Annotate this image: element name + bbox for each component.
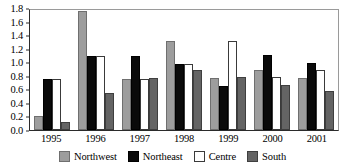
bar-1998-centre	[184, 64, 193, 130]
bar-2001-northeast	[307, 63, 316, 130]
bar-1996-south	[105, 93, 114, 130]
x-axis-tick-label-2001: 2001	[307, 133, 327, 147]
legend-item-south[interactable]: South	[247, 151, 286, 162]
bar-1995-centre	[52, 79, 61, 131]
y-axis-tick-label: 1.6	[10, 17, 23, 28]
bar-1998-south	[193, 70, 202, 130]
x-axis-tick-label-2000: 2000	[262, 133, 282, 147]
legend-item-centre[interactable]: Centre	[194, 151, 236, 162]
x-axis-tick-label-1996: 1996	[85, 133, 105, 147]
y-axis: 0.00.20.40.60.81.01.21.41.61.8	[0, 0, 26, 136]
bar-1995-northwest	[34, 116, 43, 130]
bar-2000-south	[281, 85, 290, 130]
bar-1996-northwest	[78, 11, 87, 130]
legend-swatch-icon	[247, 151, 258, 162]
bar-group-2001	[298, 10, 334, 130]
legend-item-northwest[interactable]: Northwest	[59, 151, 117, 162]
bar-2000-northeast	[263, 55, 272, 130]
legend-swatch-icon	[194, 151, 205, 162]
y-axis-tick-label: 0.4	[10, 99, 23, 110]
legend-item-northeast[interactable]: Northeast	[128, 151, 183, 162]
x-axis-tick-label-1995: 1995	[41, 133, 61, 147]
bar-1998-northeast	[175, 64, 184, 130]
x-axis-tick-label-1998: 1998	[174, 133, 194, 147]
bar-group-1999	[210, 10, 246, 130]
x-axis-tick-label-1997: 1997	[130, 133, 150, 147]
x-axis: 1995199619971998199920002001	[29, 133, 339, 147]
bar-2001-northwest	[298, 78, 307, 130]
y-axis-tick-label: 1.0	[10, 58, 23, 69]
bar-1995-northeast	[43, 79, 52, 131]
y-axis-tick-label: 1.2	[10, 44, 23, 55]
legend-item-label: Centre	[209, 151, 236, 162]
grouped-bar-chart: 0.00.20.40.60.81.01.21.41.61.8 199519961…	[0, 0, 345, 167]
bar-group-1997	[122, 10, 158, 130]
plot-area	[29, 9, 339, 131]
y-axis-tick-label: 1.8	[10, 4, 23, 15]
bar-1997-south	[149, 78, 158, 130]
legend-item-label: South	[262, 151, 286, 162]
bar-group-1998	[166, 10, 202, 130]
y-axis-tick-label: 1.4	[10, 31, 23, 42]
bar-2001-south	[325, 91, 334, 130]
y-axis-tick-label: 0.8	[10, 72, 23, 83]
chart-legend: NorthwestNortheastCentreSouth	[0, 148, 345, 164]
legend-swatch-icon	[59, 151, 70, 162]
legend-item-label: Northeast	[143, 151, 183, 162]
bar-1997-northeast	[131, 56, 140, 130]
bar-group-1995	[34, 10, 70, 130]
y-axis-tick-label: 0.6	[10, 85, 23, 96]
legend-item-label: Northwest	[74, 151, 117, 162]
bar-1998-northwest	[166, 41, 175, 130]
x-axis-tick-label-1999: 1999	[218, 133, 238, 147]
bar-1995-south	[61, 122, 70, 130]
bar-2000-northwest	[254, 70, 263, 130]
bar-1997-centre	[140, 79, 149, 131]
bar-1999-centre	[228, 41, 237, 130]
y-axis-tick-label: 0.0	[10, 126, 23, 137]
legend-swatch-icon	[128, 151, 139, 162]
bar-1999-northwest	[210, 78, 219, 130]
bar-1996-northeast	[87, 56, 96, 130]
bar-2000-centre	[272, 77, 281, 130]
bar-2001-centre	[316, 70, 325, 130]
bar-1999-northeast	[219, 86, 228, 130]
y-axis-tick-label: 0.2	[10, 112, 23, 123]
bar-group-1996	[78, 10, 114, 130]
bar-1999-south	[237, 77, 246, 130]
bar-1996-centre	[96, 56, 105, 130]
bar-group-2000	[254, 10, 290, 130]
bars-layer	[30, 10, 338, 130]
bar-1997-northwest	[122, 79, 131, 131]
